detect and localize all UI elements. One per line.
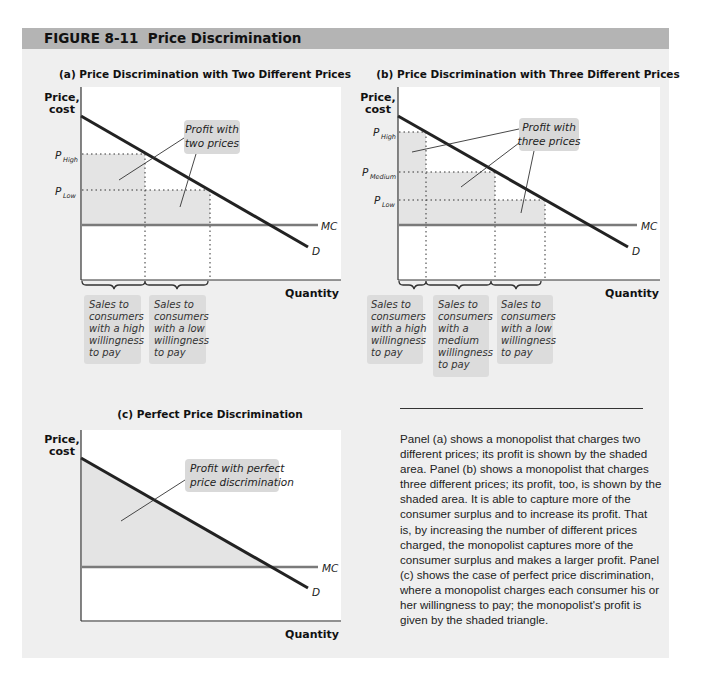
svg-text:consumers: consumers (89, 311, 144, 322)
svg-text:with a low: with a low (154, 323, 206, 334)
svg-text:with a high: with a high (89, 323, 145, 334)
svg-text:consumers: consumers (371, 311, 426, 322)
svg-text:MC: MC (322, 562, 339, 574)
svg-text:cost: cost (49, 445, 75, 458)
figure-caption: Panel (a) shows a monopolist that charge… (400, 431, 662, 627)
svg-text:Sales to: Sales to (89, 299, 129, 310)
svg-text:two prices: two prices (185, 137, 240, 149)
svg-text:to pay: to pay (438, 359, 471, 370)
panel-a-mc-label: MC (321, 220, 338, 232)
svg-text:to pay: to pay (371, 347, 404, 358)
svg-text:consumers: consumers (438, 311, 493, 322)
svg-text:with a low: with a low (501, 323, 553, 334)
panel-b-p-low: P (374, 194, 381, 206)
svg-text:to pay: to pay (89, 347, 122, 358)
svg-text:Profit with perfect: Profit with perfect (190, 462, 285, 474)
svg-text:Low: Low (382, 201, 396, 209)
panel-a-d-label: D (312, 245, 320, 257)
panel-a-p-low: P (55, 185, 62, 197)
panel-a: (a) Price Discrimination with Two Differ… (44, 68, 351, 364)
svg-text:(c) Perfect Price Discriminati: (c) Perfect Price Discrimination (117, 408, 303, 420)
svg-text:Medium: Medium (370, 173, 396, 181)
panel-b-title: (b) Price Discrimination with Three Diff… (376, 68, 680, 80)
panel-a-ylabel-2: cost (49, 103, 75, 116)
svg-text:Sales to: Sales to (501, 299, 541, 310)
svg-text:to pay: to pay (154, 347, 187, 358)
panel-b-p-high: P (373, 126, 380, 138)
svg-text:willingness: willingness (371, 335, 426, 346)
svg-text:Quantity: Quantity (285, 628, 339, 641)
panel-b-braces (399, 281, 541, 289)
panel-b-p-medium: P (362, 166, 369, 178)
svg-text:three prices: three prices (518, 135, 581, 147)
panel-c: (c) Perfect Price Discrimination MC D Pr… (44, 408, 341, 641)
svg-text:Low: Low (63, 192, 77, 200)
panel-a-xlabel: Quantity (285, 287, 339, 300)
caption-rule (400, 408, 643, 409)
svg-text:willingness: willingness (501, 335, 556, 346)
svg-text:Profit with: Profit with (185, 123, 239, 135)
panel-a-braces (82, 281, 208, 289)
svg-text:Quantity: Quantity (605, 287, 659, 300)
svg-text:medium: medium (438, 335, 479, 346)
svg-text:Sales to: Sales to (371, 299, 411, 310)
svg-text:High: High (381, 133, 396, 141)
svg-text:Sales to: Sales to (154, 299, 194, 310)
svg-text:willingness: willingness (154, 335, 209, 346)
svg-text:Sales to: Sales to (438, 299, 478, 310)
svg-text:D: D (312, 586, 320, 598)
panel-a-p-high: P (55, 149, 62, 161)
svg-text:willingness: willingness (438, 347, 493, 358)
panel-a-title: (a) Price Discrimination with Two Differ… (59, 68, 351, 80)
svg-text:with a high: with a high (371, 323, 427, 334)
svg-text:Profit with: Profit with (522, 121, 576, 133)
svg-text:consumers: consumers (501, 311, 556, 322)
svg-text:consumers: consumers (154, 311, 209, 322)
svg-text:willingness: willingness (89, 335, 144, 346)
svg-text:MC: MC (641, 220, 658, 232)
svg-text:cost: cost (365, 103, 391, 116)
svg-text:to pay: to pay (501, 347, 534, 358)
panel-b: (b) Price Discrimination with Three Diff… (360, 68, 679, 377)
svg-text:price discrimination: price discrimination (189, 476, 294, 488)
svg-text:D: D (632, 245, 640, 257)
panel-a-profit-low (145, 190, 210, 225)
svg-text:High: High (63, 156, 78, 164)
svg-text:with a: with a (438, 323, 469, 334)
